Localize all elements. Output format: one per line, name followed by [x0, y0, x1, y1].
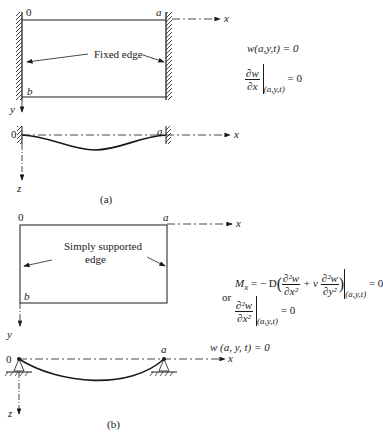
fig-b-x-axis-label: x	[236, 218, 241, 229]
fig-a-a-label: a	[156, 7, 162, 18]
fig-b-origin-label: 0	[18, 212, 24, 223]
curvature-fraction: ∂²w ∂x²	[235, 299, 253, 324]
fig-b-y-axis-label: y	[7, 329, 12, 340]
slope-fraction: ∂w ∂x	[245, 67, 260, 92]
fig-b-caption: (b)	[107, 419, 120, 430]
or-label: or	[222, 292, 231, 303]
fig-b-edge-label-line1: Simply supported	[64, 241, 142, 252]
fig-a-origin-label: 0	[26, 7, 32, 18]
fig-a-caption: (a)	[100, 194, 112, 205]
fig-b-curvature-condition: ∂²w ∂x² (a,y,t) = 0	[235, 296, 295, 326]
fig-b-side-origin-label: 0	[6, 354, 12, 365]
fig-a-deflection-condition: w(a,y,t) = 0	[247, 42, 298, 54]
fig-b-side-view	[5, 357, 225, 414]
fig-b-moment-condition: Mx = − D( ∂²w ∂x² + ν ∂²w ∂y² )(a,y,t) =…	[235, 269, 383, 299]
fig-a-fixed-edge-label: Fixed edge	[94, 49, 143, 60]
fig-a-x-axis-label: x	[224, 13, 229, 24]
fig-a-slope-condition: ∂w ∂x (a,y,t) = 0	[245, 64, 302, 94]
fig-a-side-a-label: a	[157, 126, 163, 137]
term1-fraction: ∂²w ∂x²	[282, 272, 300, 297]
fig-b-z-axis-label: z	[8, 408, 12, 419]
fig-a-plate	[16, 12, 220, 112]
fig-b-side-a-label: a	[161, 344, 167, 355]
fig-a-z-axis-label: z	[17, 183, 21, 194]
fig-a-b-label: b	[27, 86, 33, 97]
fig-a-side-view	[17, 126, 230, 180]
fig-a-side-x-label: x	[234, 129, 239, 140]
fig-a-side-origin-label: 0	[11, 129, 17, 140]
fig-b-a-label: a	[163, 212, 169, 223]
fig-b-edge-label-line2: edge	[85, 254, 106, 265]
fig-b-side-x-label: x	[228, 353, 233, 364]
fig-b-b-label: b	[24, 291, 30, 302]
fig-a-y-axis-label: y	[10, 104, 15, 115]
fig-b-deflection-condition: w (a, y, t) = 0	[210, 341, 270, 353]
term2-fraction: ∂²w ∂y²	[321, 272, 339, 297]
